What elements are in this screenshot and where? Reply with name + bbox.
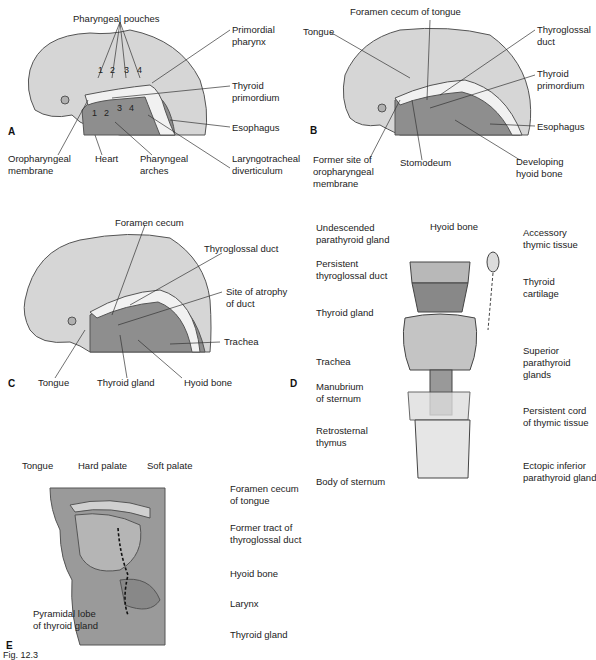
label-hyoid-bone-c: Hyoid bone (184, 377, 232, 388)
label-esophagus-b: Esophagus (537, 121, 585, 132)
arch-number-4: 4 (129, 103, 134, 114)
label-thyroid-cartilage-2: cartilage (523, 288, 559, 299)
label-tongue-b: Tongue (303, 26, 334, 37)
pouch-number-4: 4 (137, 65, 142, 76)
label-tongue-c: Tongue (38, 377, 69, 388)
label-persistent-duct-2: thyroglossal duct (316, 270, 387, 281)
label-retrosternal-2: thymus (316, 437, 347, 448)
arch-number-2: 2 (104, 108, 109, 119)
label-foramen-cecum-c: Foramen cecum (115, 217, 184, 228)
label-hyoid-bone-d: Hyoid bone (430, 221, 478, 232)
arch-number-1: 1 (92, 108, 97, 119)
panel-letter-c: C (8, 378, 15, 389)
label-oropharyngeal-membrane-1: Oropharyngeal (8, 153, 71, 164)
label-hyoid-bone-e: Hyoid bone (230, 568, 278, 579)
label-former-site-1: Former site of (313, 154, 372, 165)
label-persistent-duct-1: Persistent (316, 258, 358, 269)
label-esophagus-a: Esophagus (232, 122, 280, 133)
label-heart: Heart (95, 153, 118, 164)
label-manubrium-1: Manubrium (316, 381, 364, 392)
label-thyroid-gland-d: Thyroid gland (316, 307, 374, 318)
label-thyroid-primordium-b-2: primordium (537, 80, 585, 91)
label-undescended-2: parathyroid gland (316, 234, 389, 245)
label-foramen-cecum-e-1: Foramen cecum (230, 483, 299, 494)
label-developing-hyoid-1: Developing (516, 156, 564, 167)
label-thyroid-primordium-a-2: primordium (232, 92, 280, 103)
label-ectopic-1: Ectopic inferior (523, 460, 586, 471)
label-pharyngeal-arches-2: arches (140, 165, 169, 176)
label-pyramidal-lobe-1: Pyramidal lobe (33, 608, 96, 619)
label-superior-parathyroid-3: glands (523, 369, 551, 380)
label-accessory-thymic-1: Accessory (523, 227, 567, 238)
label-tongue-e: Tongue (22, 460, 53, 471)
label-foramen-cecum-e-2: of tongue (230, 495, 270, 506)
label-former-tract-1: Former tract of (230, 522, 292, 533)
label-accessory-thymic-2: thymic tissue (523, 239, 578, 250)
figure-caption: Fig. 12.3 (3, 650, 38, 660)
label-undescended-1: Undescended (316, 222, 375, 233)
panel-letter-d: D (290, 378, 297, 389)
pouch-number-3: 3 (124, 65, 129, 76)
label-body-sternum: Body of sternum (316, 476, 385, 487)
label-persistent-cord-2: of thymic tissue (523, 417, 588, 428)
arch-number-3: 3 (117, 103, 122, 114)
panel-a-art (28, 30, 206, 135)
label-former-site-2: oropharyngeal (313, 166, 374, 177)
label-hard-palate: Hard palate (78, 460, 127, 471)
label-pyramidal-lobe-2: of thyroid gland (33, 620, 98, 631)
label-developing-hyoid-2: hyoid bone (516, 168, 562, 179)
panel-d-art (403, 252, 499, 478)
pouch-number-1: 1 (98, 65, 103, 76)
label-trachea-c: Trachea (224, 336, 259, 347)
label-thyroglossal-duct-b-1: Thyroglossal (537, 24, 591, 35)
label-primordial-pharynx-2: pharynx (232, 36, 266, 47)
label-persistent-cord-1: Persistent cord (523, 405, 586, 416)
label-thyroid-gland-e: Thyroid gland (230, 629, 288, 640)
label-thyroglossal-duct-c: Thyroglossal duct (204, 243, 278, 254)
label-pharyngeal-arches-1: Pharyngeal (140, 153, 188, 164)
label-former-site-3: membrane (313, 178, 358, 189)
label-ectopic-2: parathyroid gland (523, 472, 596, 483)
panel-letter-b: B (310, 125, 317, 136)
label-thyroid-cartilage-1: Thyroid (523, 276, 555, 287)
panel-c-art (24, 234, 211, 352)
label-superior-parathyroid-2: parathyroid (523, 357, 571, 368)
label-superior-parathyroid-1: Superior (523, 345, 559, 356)
pouch-number-2: 2 (110, 65, 115, 76)
label-foramen-cecum-tongue-b: Foramen cecum of tongue (350, 6, 461, 17)
label-thyroid-primordium-b-1: Thyroid (537, 68, 569, 79)
label-thyroglossal-duct-b-2: duct (537, 36, 555, 47)
label-thyroid-primordium-a-1: Thyroid (232, 80, 264, 91)
panel-letter-a: A (8, 126, 15, 137)
label-trachea-d: Trachea (316, 356, 351, 367)
label-primordial-pharynx-1: Primordial (232, 24, 275, 35)
label-laryngotracheal-1: Laryngotracheal (232, 153, 300, 164)
label-larynx: Larynx (230, 598, 259, 609)
label-former-tract-2: thyroglossal duct (230, 534, 301, 545)
label-thyroid-gland-c: Thyroid gland (97, 377, 155, 388)
label-site-atrophy-2: of duct (226, 298, 255, 309)
label-soft-palate: Soft palate (147, 460, 192, 471)
label-site-atrophy-1: Site of atrophy (226, 286, 287, 297)
panel-b-art (343, 28, 530, 135)
label-oropharyngeal-membrane-2: membrane (8, 165, 53, 176)
label-pharyngeal-pouches: Pharyngeal pouches (73, 13, 160, 24)
label-laryngotracheal-2: diverticulum (232, 165, 283, 176)
label-stomodeum: Stomodeum (400, 157, 451, 168)
label-retrosternal-1: Retrosternal (316, 425, 368, 436)
label-manubrium-2: of sternum (316, 393, 361, 404)
